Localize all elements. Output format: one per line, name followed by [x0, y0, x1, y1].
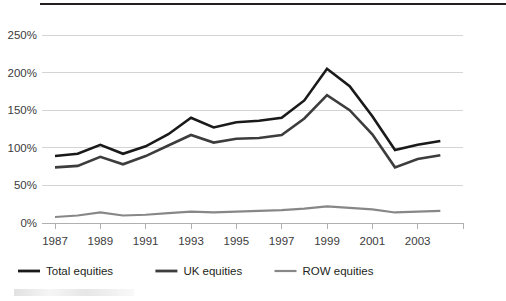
x-axis-label: 1995 — [224, 235, 250, 247]
y-axis-label: 0% — [20, 217, 37, 229]
y-axis-labels-group: 0%50%100%150%200%250% — [8, 29, 37, 229]
x-axis-label: 1991 — [133, 235, 159, 247]
y-axis-label: 150% — [8, 104, 37, 116]
legend-label-1: UK equities — [183, 265, 242, 277]
series-line-total-equities — [55, 69, 440, 156]
x-axis-label: 1997 — [269, 235, 295, 247]
x-axis-label: 1989 — [88, 235, 114, 247]
gridlines-group — [42, 35, 463, 223]
y-axis-label: 50% — [14, 179, 37, 191]
chart-legend: Total equitiesUK equitiesROW equities — [18, 265, 374, 277]
y-axis-label: 250% — [8, 29, 37, 41]
x-axis-labels-group: 198719891991199319951997199920012003 — [42, 235, 430, 247]
y-axis-label: 100% — [8, 142, 37, 154]
x-axis-label: 1987 — [42, 235, 68, 247]
tickmarks-group — [55, 223, 463, 229]
legend-label-0: Total equities — [46, 265, 113, 277]
series-line-row-equities — [55, 206, 440, 217]
legend-label-2: ROW equities — [303, 265, 374, 277]
series-lines-group — [55, 69, 440, 217]
x-axis-label: 1993 — [178, 235, 204, 247]
footer-caption-artifact — [14, 289, 134, 296]
x-axis-label: 2003 — [405, 235, 431, 247]
y-axis-label: 200% — [8, 67, 37, 79]
chart-figure: 0%50%100%150%200%250% 198719891991199319… — [0, 0, 506, 301]
equities-line-chart: 0%50%100%150%200%250% 198719891991199319… — [0, 0, 506, 301]
x-axis-label: 1999 — [314, 235, 340, 247]
x-axis-label: 2001 — [360, 235, 386, 247]
